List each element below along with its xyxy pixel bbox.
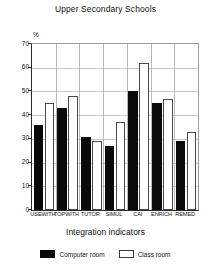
plot-area <box>31 43 199 211</box>
bar <box>128 91 138 210</box>
y-tick-label: 70 <box>3 40 29 47</box>
bar <box>45 103 55 210</box>
legend-swatch <box>40 250 55 258</box>
bar <box>68 96 78 210</box>
legend-item[interactable]: Class room <box>119 250 171 258</box>
bar <box>57 108 67 210</box>
y-tick-label: 30 <box>3 134 29 141</box>
y-tick-label: 60 <box>3 63 29 70</box>
y-tick-label: 20 <box>3 158 29 165</box>
bar <box>152 103 162 210</box>
chart-title: Upper Secondary Schools <box>0 4 211 14</box>
bar <box>187 132 197 210</box>
bar <box>34 125 44 210</box>
x-axis-title: Integration indicators <box>0 227 211 237</box>
legend-label: Computer room <box>59 251 104 258</box>
bar <box>92 141 102 210</box>
bar <box>105 146 115 210</box>
bars-layer <box>32 44 198 210</box>
legend-swatch <box>119 250 134 258</box>
bar <box>176 141 186 210</box>
chart-legend: Computer roomClass room <box>0 250 211 258</box>
bar-chart-figure: Upper Secondary Schools % 01020304050607… <box>0 0 211 274</box>
y-tick-label: 10 <box>3 182 29 189</box>
bar <box>116 122 126 210</box>
legend-item[interactable]: Computer room <box>40 250 104 258</box>
legend-label: Class room <box>138 251 171 258</box>
y-tick-label: 40 <box>3 111 29 118</box>
bar <box>81 137 91 211</box>
y-tick-label: 50 <box>3 87 29 94</box>
y-axis-unit-label: % <box>33 31 39 38</box>
bar <box>139 63 149 210</box>
x-axis-tick-labels: USEWITHTOPWITHTUTORSIMULCAIENRICHREMED <box>31 211 199 223</box>
bar <box>163 99 173 210</box>
x-tick-label: REMED <box>161 211 209 217</box>
